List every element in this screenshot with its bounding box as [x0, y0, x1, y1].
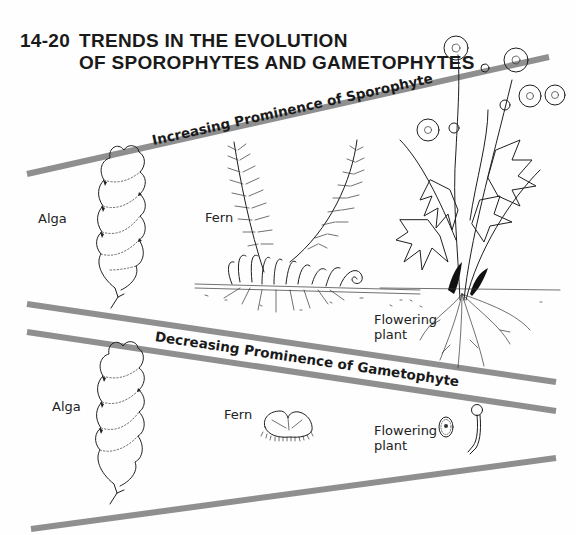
figure-14-20: 14-20 TRENDS IN THE EVOLUTION OF SPOROPH…	[0, 0, 576, 535]
fern-sporophyte-icon	[195, 140, 420, 312]
alga-sporophyte-icon	[97, 146, 146, 308]
sporophyte-fern-label: Fern	[205, 210, 233, 225]
gametophyte-flowering-plant-label-line-2: plant	[374, 438, 407, 453]
sporophyte-flowering-plant-label-line-2: plant	[374, 327, 407, 342]
gametophyte-fern-label: Fern	[224, 407, 252, 422]
sporophyte-alga-label: Alga	[38, 211, 67, 226]
alga-gametophyte-icon	[96, 342, 145, 504]
gametophyte-bottom-band	[31, 458, 556, 529]
gametophyte-alga-label: Alga	[52, 399, 81, 414]
gametophyte-flowering-plant-label-line-1: Flowering	[374, 423, 437, 438]
diagram-artwork	[0, 0, 576, 535]
sporophyte-flowering-plant-label-line-1: Flowering	[374, 312, 437, 327]
pollen-grain-icon	[439, 405, 483, 455]
fern-prothallus-icon	[261, 411, 313, 441]
